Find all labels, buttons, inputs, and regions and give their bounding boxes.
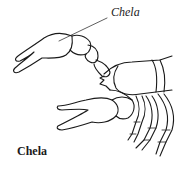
lower-carpus <box>112 97 134 119</box>
callout-leader-line <box>59 18 107 41</box>
walking-leg-2 <box>136 96 158 150</box>
walking-leg-3 <box>156 94 174 156</box>
upper-claw <box>14 34 73 73</box>
carapace-seam <box>152 60 157 92</box>
lower-claw <box>57 98 118 130</box>
walking-leg-1 <box>128 96 145 142</box>
upper-merus-b <box>94 60 110 77</box>
callout-label-chela: Chela <box>111 5 140 19</box>
mouthparts <box>100 76 110 90</box>
figure-caption: Chela <box>17 144 47 158</box>
carapace-seam-2 <box>160 60 165 92</box>
